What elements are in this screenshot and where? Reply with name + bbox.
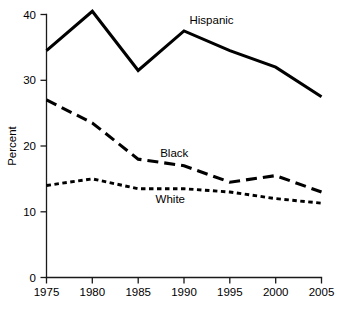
y-tick-label-10: 10 [23, 206, 36, 218]
x-tick-label-1985: 1985 [125, 286, 151, 298]
x-tick-label-1980: 1980 [80, 286, 106, 298]
y-tick-label-20: 20 [23, 140, 36, 152]
x-tick-label-2005: 2005 [309, 286, 335, 298]
x-tick-label-1990: 1990 [171, 286, 197, 298]
series-label-white: White [156, 193, 185, 205]
chart-series-group [47, 11, 322, 203]
y-tick-label-0: 0 [30, 272, 36, 284]
y-tick-label-30: 30 [23, 74, 36, 86]
line-chart-figure: 0 10 20 30 40 1975 1980 1985 1990 1995 2… [0, 0, 342, 309]
series-label-hispanic: Hispanic [190, 14, 234, 26]
chart-canvas: 0 10 20 30 40 1975 1980 1985 1990 1995 2… [0, 0, 342, 309]
y-axis-ticks: 0 10 20 30 40 [23, 9, 46, 284]
y-tick-label-40: 40 [23, 9, 36, 21]
y-axis-title: Percent [6, 125, 18, 165]
x-axis-ticks: 1975 1980 1985 1990 1995 2000 2005 [34, 278, 335, 299]
x-tick-label-1995: 1995 [217, 286, 243, 298]
series-line-hispanic [47, 11, 322, 96]
x-tick-label-1975: 1975 [34, 286, 60, 298]
chart-series-labels: Hispanic Black White [156, 14, 234, 206]
x-tick-label-2000: 2000 [263, 286, 289, 298]
series-label-black: Black [160, 147, 188, 159]
